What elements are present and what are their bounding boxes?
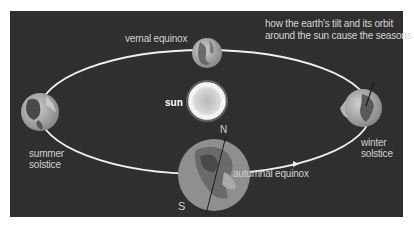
label-north-pole: N: [220, 124, 227, 135]
title-line-1: how the earth's tilt and its orbit: [265, 18, 412, 30]
earth-summer-icon: [21, 93, 59, 131]
label-vernal-equinox: vernal equinox: [125, 33, 187, 44]
label-autumnal-equinox: autumnal equinox: [233, 168, 309, 179]
diagram-title: how the earth's tilt and its orbit aroun…: [265, 18, 412, 42]
label-sun: sun: [165, 97, 183, 108]
winter-line-1: winter: [361, 137, 393, 148]
label-summer-solstice: summer solstice: [29, 148, 64, 170]
label-south-pole: S: [178, 201, 185, 212]
summer-line-2: solstice: [29, 159, 64, 170]
summer-line-1: summer: [29, 148, 64, 159]
label-winter-solstice: winter solstice: [361, 137, 393, 159]
sun-icon: [186, 80, 228, 122]
title-line-2: around the sun cause the seasons: [265, 30, 412, 42]
orbit-direction-arrow-icon: [293, 161, 299, 167]
winter-line-2: solstice: [361, 148, 393, 159]
earth-vernal-icon: [192, 38, 222, 68]
earth-winter-icon: [340, 82, 382, 127]
